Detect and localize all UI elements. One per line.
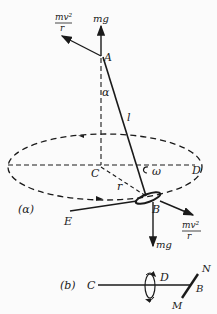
line-eb — [70, 201, 137, 211]
label-l: l — [127, 111, 131, 124]
figure-a: A α l C D ω r B E (α) mg mg mv² r mv² r — [8, 12, 202, 250]
label-A: A — [103, 51, 112, 64]
rotation-loop-icon — [145, 274, 155, 298]
label-b-C: C — [87, 279, 96, 292]
centrifugal-arrow-top-icon — [62, 36, 101, 56]
force-top-denominator: r — [60, 23, 65, 33]
label-b-N: N — [201, 263, 212, 274]
label-b-D: D — [159, 271, 169, 284]
radius-dashed — [101, 167, 146, 196]
label-C: C — [91, 167, 100, 180]
label-E: E — [63, 215, 72, 228]
label-b-M: M — [171, 300, 183, 311]
force-bottom-denominator: r — [187, 231, 192, 241]
label-r: r — [117, 180, 123, 193]
figure-b: (b) C D N B M — [60, 263, 212, 311]
orbit-arrow-top-icon — [78, 135, 84, 138]
label-mg-bottom: mg — [156, 239, 172, 250]
rod — [103, 57, 146, 196]
force-bottom-numerator: mv² — [182, 220, 200, 230]
centrifugal-arrow-bottom-icon — [160, 201, 193, 215]
label-D: D — [191, 164, 201, 177]
panel-label-a: (α) — [18, 203, 34, 216]
force-top-numerator: mv² — [55, 12, 73, 22]
label-omega: ω — [152, 165, 161, 178]
label-alpha: α — [102, 86, 110, 99]
label-B: B — [151, 203, 160, 216]
physics-diagram: A α l C D ω r B E (α) mg mg mv² r mv² r … — [0, 0, 217, 314]
orbit-ellipse — [8, 134, 202, 200]
label-mg-top: mg — [93, 13, 109, 24]
panel-label-b: (b) — [60, 279, 76, 292]
rotation-omega-icon — [143, 167, 148, 173]
label-b-B: B — [195, 283, 203, 294]
